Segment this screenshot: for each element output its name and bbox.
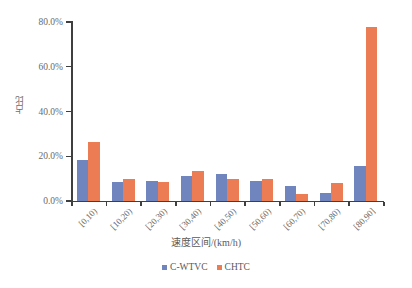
legend-swatch-icon	[162, 265, 167, 270]
x-tick-mark	[244, 202, 246, 206]
x-tick-label: [70,80)	[308, 206, 342, 240]
bar-chart-figure: 占比 0.0%20.0%40.0%60.0%80.0% [0,10)[10,20…	[0, 0, 412, 288]
bar-chtc[interactable]	[227, 179, 239, 201]
x-tick-label: [0,10)	[65, 206, 99, 240]
chart-legend: C-WTVCCHTC	[0, 262, 412, 273]
bar-chtc[interactable]	[331, 183, 343, 201]
x-tick-mark	[71, 202, 73, 206]
legend-item[interactable]: CHTC	[217, 262, 250, 273]
x-tick-mark	[175, 202, 177, 206]
x-tick-mark	[279, 202, 281, 206]
x-tick-label: [80,90]	[343, 206, 377, 240]
x-tick-mark	[383, 202, 385, 206]
bar-c-wtvc[interactable]	[250, 181, 262, 201]
bar-c-wtvc[interactable]	[354, 166, 366, 201]
x-tick-mark	[210, 202, 212, 206]
legend-label: CHTC	[225, 262, 250, 273]
y-tick-label: 40.0%	[15, 107, 63, 117]
y-tick-label: 80.0%	[15, 17, 63, 27]
x-tick-label: [30,40)	[169, 206, 203, 240]
x-tick-label: [10,20)	[100, 206, 134, 240]
bar-group	[112, 22, 135, 201]
bar-chtc[interactable]	[296, 194, 308, 201]
bar-c-wtvc[interactable]	[181, 176, 193, 201]
legend-item[interactable]: C-WTVC	[162, 262, 207, 273]
x-tick-label: [40,50)	[204, 206, 238, 240]
bar-group	[216, 22, 239, 201]
bar-c-wtvc[interactable]	[216, 174, 228, 201]
bar-group	[354, 22, 377, 201]
bar-chtc[interactable]	[88, 142, 100, 201]
y-tick-label: 0.0%	[15, 196, 63, 206]
bar-chtc[interactable]	[366, 27, 378, 201]
bar-group	[320, 22, 343, 201]
legend-label: C-WTVC	[170, 262, 207, 273]
bar-c-wtvc[interactable]	[320, 193, 332, 201]
bar-chtc[interactable]	[262, 179, 274, 201]
legend-swatch-icon	[217, 265, 222, 270]
x-tick-label: [50,60)	[239, 206, 273, 240]
bar-c-wtvc[interactable]	[77, 160, 89, 201]
x-tick-label: [60,70)	[273, 206, 307, 240]
bar-chtc[interactable]	[123, 179, 135, 201]
bar-group	[285, 22, 308, 201]
bar-chtc[interactable]	[192, 171, 204, 201]
y-tick-label: 20.0%	[15, 151, 63, 161]
x-axis-title: 速度区间/(km/h)	[0, 237, 412, 249]
bar-c-wtvc[interactable]	[285, 186, 297, 201]
x-tick-label: [20,30)	[135, 206, 169, 240]
x-tick-mark	[314, 202, 316, 206]
y-tick-label: 60.0%	[15, 62, 63, 72]
bar-group	[77, 22, 100, 201]
bar-group	[250, 22, 273, 201]
x-tick-mark	[106, 202, 108, 206]
plot-area	[71, 22, 383, 201]
x-tick-mark	[140, 202, 142, 206]
bar-c-wtvc[interactable]	[146, 181, 158, 201]
bar-group	[181, 22, 204, 201]
x-tick-mark	[348, 202, 350, 206]
bar-group	[146, 22, 169, 201]
bar-chtc[interactable]	[158, 182, 170, 201]
bar-c-wtvc[interactable]	[112, 182, 124, 201]
